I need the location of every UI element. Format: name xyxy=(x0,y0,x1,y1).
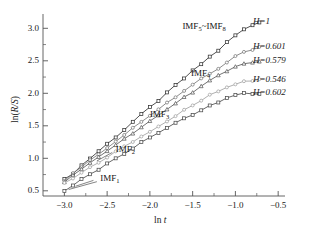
annotation-imf2: IMF2 xyxy=(116,145,135,154)
legend-label-imf1: H=0.602 xyxy=(253,88,286,97)
annotation-imf3: IMF3 xyxy=(150,110,169,119)
y-tick-label: 0.5 xyxy=(28,186,39,195)
legend-label-imf4: H=0.601 xyxy=(253,42,286,51)
y-axis-title: ln(R/S) xyxy=(11,96,21,123)
series-imf3 xyxy=(62,60,261,184)
y-tick-label: 2.0 xyxy=(28,89,39,98)
y-tick-label: 3.0 xyxy=(28,24,39,33)
data-series-group xyxy=(62,21,261,193)
series-imf5-imf8 xyxy=(63,21,261,181)
legend-label-imf3: H=0.579 xyxy=(253,56,286,65)
annotation-imf1: IMF1 xyxy=(100,174,119,183)
x-tick-label: −2.0 xyxy=(135,201,165,210)
x-tick-label: −2.5 xyxy=(92,201,122,210)
y-tick-label: 1.0 xyxy=(28,154,39,163)
legend-label-imf5-imf8: H=1 xyxy=(253,17,270,26)
annotation-imf4: IMF4 xyxy=(191,69,210,78)
x-axis-title: ln t xyxy=(154,216,166,226)
x-tick-label: −0.5 xyxy=(263,201,293,210)
figure-container: ln(R/S) ln t 0.51.01.52.02.53.0 −3.0−2.5… xyxy=(0,0,310,238)
y-tick-label: 2.5 xyxy=(28,56,39,65)
legend-label-imf2: H=0.546 xyxy=(253,75,286,84)
annotation-imf58: IMF5~IMF8 xyxy=(182,22,225,31)
x-tick-label: −1.5 xyxy=(178,201,208,210)
x-tick-label: −1.0 xyxy=(220,201,250,210)
y-tick-label: 1.5 xyxy=(28,121,39,130)
x-tick-label: −3.0 xyxy=(49,201,79,210)
